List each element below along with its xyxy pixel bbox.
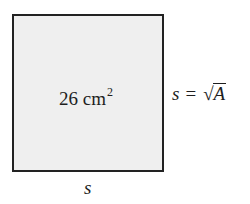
formula-radicand: A xyxy=(213,83,227,103)
side-length-formula: s=√A xyxy=(172,83,226,105)
formula-lhs: s xyxy=(172,83,179,104)
area-label: 26 cm2 xyxy=(59,83,113,110)
formula-equals: = xyxy=(185,83,196,104)
area-value: 26 xyxy=(59,88,78,109)
side-label: s xyxy=(84,177,91,199)
area-unit: cm xyxy=(83,88,106,109)
area-exponent: 2 xyxy=(107,85,113,99)
square-root: √A xyxy=(203,83,226,105)
